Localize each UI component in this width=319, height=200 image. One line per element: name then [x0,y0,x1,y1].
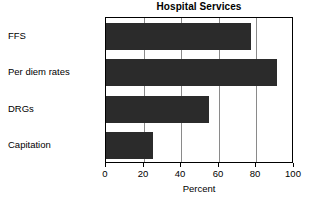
x-tick-mark [218,163,219,167]
bar [106,59,277,86]
x-tick-mark [180,163,181,167]
x-tick-label: 0 [90,168,120,179]
bar-row [106,59,293,86]
category-label: Per diem rates [8,66,103,77]
x-tick-label: 100 [278,168,308,179]
bar [106,132,153,159]
x-tick-mark [293,163,294,167]
x-tick-mark [105,163,106,167]
x-tick-label: 20 [128,168,158,179]
chart-title: Hospital Services [105,1,293,13]
chart-figure: Hospital Services FFSPer diem ratesDRGsC… [0,0,319,200]
bar [106,96,209,123]
x-tick-label: 60 [203,168,233,179]
category-label: Capitation [8,139,103,150]
category-label: FFS [8,30,103,41]
x-tick-mark [255,163,256,167]
plot-area [105,17,293,163]
bar-row [106,96,293,123]
bar-row [106,23,293,50]
x-tick-label: 80 [240,168,270,179]
x-tick-mark [143,163,144,167]
x-axis-title: Percent [105,183,293,194]
bar [106,23,251,50]
bar-row [106,132,293,159]
category-label: DRGs [8,103,103,114]
x-tick-label: 40 [165,168,195,179]
